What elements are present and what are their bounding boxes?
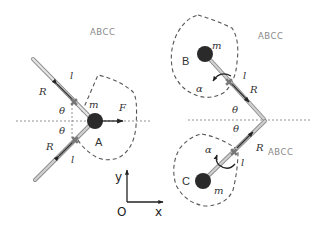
watermark-text: ABCC <box>268 147 293 157</box>
region-label-c: C <box>182 175 190 187</box>
x-axis-label: x <box>155 205 162 219</box>
length-label: l <box>71 154 74 165</box>
origin-label: O <box>117 205 126 219</box>
watermark-text: ABCC <box>258 31 283 41</box>
angle-label: θ <box>233 123 239 134</box>
radius-label: R <box>255 142 264 153</box>
angle-label: θ <box>59 105 65 116</box>
upper-radius-segment <box>232 84 249 102</box>
rotation-label: α <box>196 83 203 94</box>
coordinate-axes: y O x <box>115 170 163 219</box>
region-label-b: B <box>182 55 189 67</box>
mass-label: m <box>214 185 223 196</box>
upper-length-segment <box>57 84 74 101</box>
angle-label: θ <box>59 125 65 136</box>
region-boundary-a <box>78 75 137 160</box>
mass-label: m <box>89 99 98 110</box>
mass-b <box>197 46 213 62</box>
radius-label: R <box>45 141 54 152</box>
angle-label: θ <box>232 104 238 115</box>
radius-label: R <box>38 86 47 97</box>
rotation-label: α <box>205 144 212 155</box>
length-label: l <box>70 70 73 81</box>
mechanism-diagram: ABCC ABCC ABCC l R <box>0 0 324 230</box>
force-label: F <box>118 102 127 113</box>
region-label-a: A <box>95 136 103 148</box>
y-axis-label: y <box>115 170 122 184</box>
length-label: l <box>241 157 244 168</box>
mass-label: m <box>212 40 221 51</box>
length-label: l <box>243 70 246 81</box>
radius-label: R <box>249 84 258 95</box>
right-panel: m B α l R θ θ R α l C m <box>171 15 312 206</box>
mass-c <box>195 173 211 189</box>
left-panel: l R θ m F θ A R l <box>16 59 150 180</box>
lower-radius-segment <box>237 132 253 148</box>
watermark-text: ABCC <box>90 27 115 37</box>
